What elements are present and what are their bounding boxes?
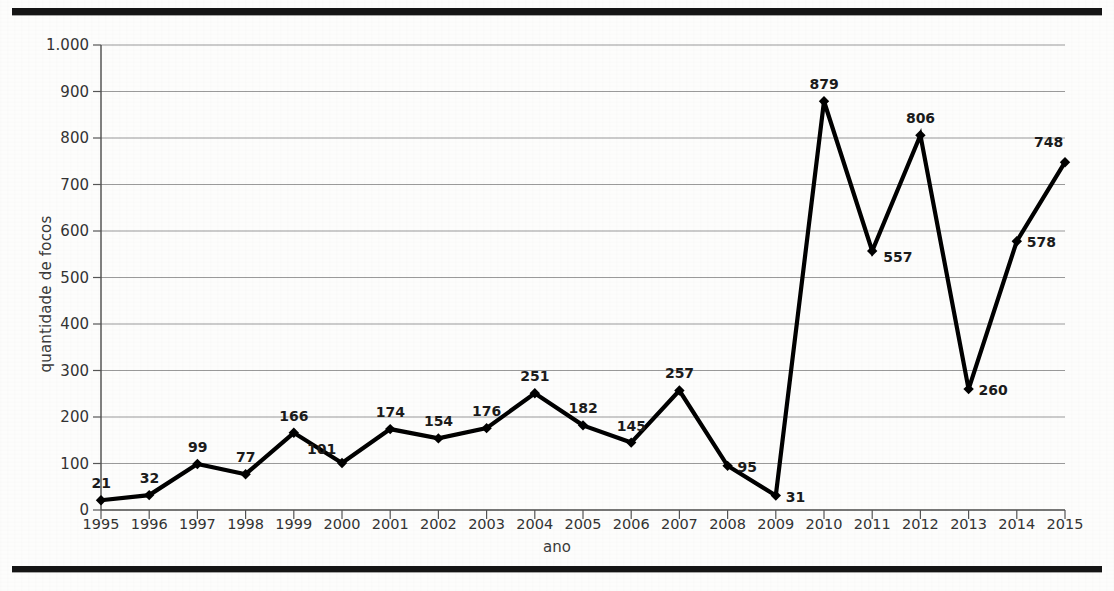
- line-chart: quantidade de focos ano 0100200300400500…: [0, 0, 1114, 591]
- data-label: 95: [738, 459, 757, 475]
- y-tick-label: 200: [23, 408, 89, 426]
- data-label: 251: [520, 368, 549, 384]
- x-tick-label: 2015: [1035, 516, 1095, 532]
- data-label: 154: [424, 413, 453, 429]
- x-axis-title: ano: [0, 538, 1114, 556]
- data-label: 182: [569, 400, 598, 416]
- y-tick-label: 300: [23, 362, 89, 380]
- y-tick-label: 900: [23, 83, 89, 101]
- y-axis-ticks: [93, 45, 101, 510]
- data-label: 99: [188, 439, 207, 455]
- y-tick-label: 100: [23, 455, 89, 473]
- y-tick-label: 700: [23, 176, 89, 194]
- data-label: 145: [617, 418, 646, 434]
- data-label: 31: [786, 489, 805, 505]
- data-label: 257: [665, 365, 694, 381]
- data-label: 260: [979, 382, 1008, 398]
- y-tick-label: 1.000: [23, 36, 89, 54]
- data-label: 879: [810, 76, 839, 92]
- data-label: 166: [279, 408, 308, 424]
- series-line: [101, 101, 1065, 500]
- y-tick-label: 800: [23, 129, 89, 147]
- data-label: 748: [1034, 134, 1063, 150]
- data-label: 557: [883, 249, 912, 265]
- data-label: 32: [140, 470, 159, 486]
- data-label: 21: [92, 475, 111, 491]
- y-tick-label: 500: [23, 269, 89, 287]
- plot-surface: [0, 0, 1114, 591]
- y-tick-label: 600: [23, 222, 89, 240]
- y-tick-label: 400: [23, 315, 89, 333]
- data-label: 77: [236, 449, 255, 465]
- data-label: 578: [1027, 234, 1056, 250]
- data-label: 101: [307, 441, 336, 457]
- data-label: 176: [472, 403, 501, 419]
- chart-page: quantidade de focos ano 0100200300400500…: [0, 0, 1114, 591]
- data-label: 806: [906, 110, 935, 126]
- data-label: 174: [376, 404, 405, 420]
